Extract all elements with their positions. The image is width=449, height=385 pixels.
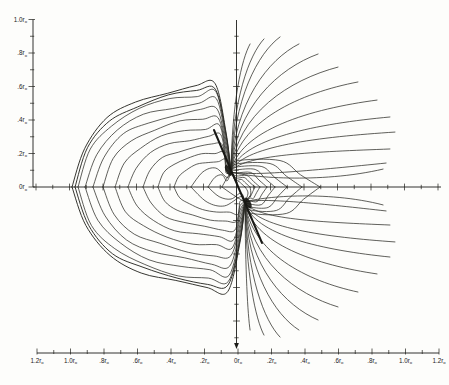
- field-line-fan: [245, 202, 358, 292]
- field-line-lobe: [78, 187, 245, 284]
- x-tick-label: .4ro: [166, 357, 176, 365]
- field-line-fan: [245, 202, 390, 225]
- field-line-fan: [231, 54, 318, 172]
- bottom-ruler: 1.2ro1.0ro.8ro.6ro.4ro.2ro0ro.2ro.4ro.6r…: [30, 349, 446, 365]
- field-line-lobe: [143, 187, 245, 232]
- field-line-chart: 1.0ro.8ro.6ro.4ro.2ro0ro1.2ro1.0ro.8ro.6…: [0, 0, 449, 385]
- y-tick-label: 0ro: [19, 183, 28, 191]
- field-line-fan: [231, 117, 390, 172]
- y-tick-label: .2ro: [17, 150, 27, 158]
- field-line-lobe: [72, 80, 231, 187]
- field-line-fan: [231, 44, 299, 172]
- y-tick-label: .8ro: [17, 49, 27, 57]
- x-tick-label: .2ro: [267, 357, 277, 365]
- x-tick-label: .2ro: [200, 357, 210, 365]
- x-tick-label: .4ro: [300, 357, 310, 365]
- field-line-lobe: [85, 187, 245, 277]
- field-line-lobe: [78, 89, 231, 187]
- field-line-lobe: [208, 172, 231, 187]
- x-tick-label: 1.0ro: [64, 357, 78, 365]
- x-tick-label: .8ro: [99, 357, 109, 365]
- y-tick-label: .6ro: [17, 83, 27, 91]
- x-tick-label: 1.2ro: [30, 357, 44, 365]
- field-line-lobe: [72, 187, 245, 294]
- field-line-lobe: [75, 187, 245, 288]
- axis-arrow: [234, 343, 239, 349]
- field-line-fan: [231, 67, 338, 172]
- x-tick-label: .8ro: [367, 357, 377, 365]
- figure-container: 1.0ro.8ro.6ro.4ro.2ro0ro1.2ro1.0ro.8ro.6…: [0, 0, 449, 385]
- field-line-lobe: [115, 124, 231, 187]
- field-line-lobe: [143, 143, 231, 187]
- field-line-fan: [245, 200, 386, 211]
- x-tick-label: .6ro: [334, 357, 344, 365]
- field-line-lobe: [128, 187, 245, 241]
- field-line-lobe: [128, 133, 231, 187]
- x-tick-label: 0ro: [234, 357, 243, 365]
- field-line-fan: [231, 163, 386, 174]
- field-line-lobe: [174, 159, 231, 187]
- x-tick-label: 1.0ro: [399, 357, 413, 365]
- y-tick-label: .4ro: [17, 116, 27, 124]
- field-line-lobe: [191, 168, 231, 187]
- x-tick-label: .6ro: [133, 357, 143, 365]
- field-line-lobe: [115, 187, 245, 249]
- y-tick-label: 1.0ro: [14, 16, 28, 24]
- left-ruler: 1.0ro.8ro.6ro.4ro.2ro0ro: [14, 16, 35, 192]
- field-line-fan: [245, 202, 377, 274]
- field-line-fan: [231, 149, 390, 172]
- field-line-fan: [231, 100, 377, 172]
- field-line-fan: [245, 202, 338, 307]
- field-line-fan: [245, 202, 390, 257]
- field-line-lobe: [158, 187, 245, 222]
- field-line-fan: [245, 202, 264, 335]
- field-line-fan: [231, 37, 280, 172]
- x-tick-label: 1.2ro: [432, 357, 446, 365]
